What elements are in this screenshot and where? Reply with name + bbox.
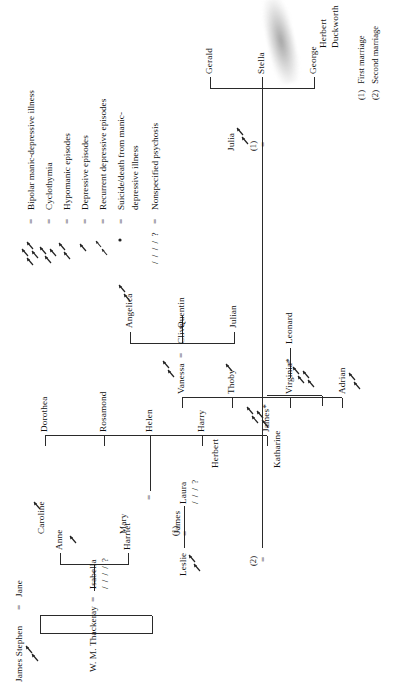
legend-equals: = [98, 219, 108, 224]
node-george: George [308, 46, 318, 74]
node-virginia-star: Virginia* [284, 358, 294, 394]
connector [104, 436, 105, 446]
legend-symbol-slashes: / / / / ? [150, 232, 160, 264]
connector [40, 616, 41, 634]
connector [182, 398, 183, 408]
node-isabella: Isabella [88, 559, 98, 589]
legend-equals: = [62, 219, 72, 224]
rotated-canvas: James Stephen = Jane W. M. Thackeray = I… [0, 0, 400, 696]
connector [267, 436, 268, 446]
legend-symbol-two-small-arrows [96, 224, 110, 266]
connector [267, 395, 322, 396]
legend-symbol-dot-arrow [114, 224, 128, 266]
node-vanessa: Vanessa [176, 363, 186, 394]
node-james-stephen: James Stephen [14, 626, 24, 682]
connector [45, 436, 46, 446]
node-herbert-duckworth-first: Herbert [318, 19, 328, 48]
node-quentin: Quentin [176, 297, 186, 328]
footnote-marker: (1) [356, 90, 366, 100]
connector [234, 332, 235, 344]
connector [184, 506, 185, 548]
connector [262, 156, 263, 398]
footnote-text: Second marriage [370, 26, 380, 84]
node-wm-thackeray: W. M. Thackeray [88, 606, 98, 672]
connector [232, 398, 233, 408]
equals-sign: = [144, 495, 154, 500]
legend-symbol-three-arrows [42, 224, 56, 266]
connector [128, 553, 129, 565]
connector [182, 397, 262, 398]
node-helen: Helen [144, 409, 154, 432]
legend-equals: = [116, 219, 126, 224]
equals-sign: = [180, 531, 190, 536]
legend-label: Bipolar manic-depressive illness [26, 90, 36, 210]
node-anne: Anne [54, 529, 64, 550]
connector [290, 398, 291, 408]
legend-symbol-one-arrow [78, 224, 92, 266]
connector [262, 77, 263, 89]
legend-label: Cyclothymia [44, 163, 54, 210]
footnote-text: First marriage [356, 35, 366, 83]
connector [60, 553, 61, 565]
connector [152, 616, 153, 634]
family-tree-page: James Stephen = Jane W. M. Thackeray = I… [0, 0, 400, 696]
legend-label: depressive illness [130, 145, 140, 210]
legend-label: Nonspecified psychosis [150, 123, 160, 210]
legend-symbol-four-arrows [24, 224, 38, 266]
node-thoby: Thoby [226, 369, 236, 394]
connector [150, 436, 151, 446]
marker-isabella-unspecified: / / / / ? [100, 557, 110, 589]
legend-equals: = [80, 219, 90, 224]
connector [210, 77, 211, 89]
node-leonard: Leonard [284, 312, 294, 344]
legend-label: Hypomanic episodes [62, 133, 72, 210]
node-gerald: Gerald [204, 48, 214, 74]
node-julian: Julian [228, 305, 238, 328]
node-herbert: Herbert [210, 439, 220, 468]
equals-sign: = [258, 142, 268, 147]
equals-sign: = [258, 557, 268, 562]
node-herbert-duckworth-last: Duckworth [330, 5, 340, 48]
marriage-label-one-duckworth: (1) [248, 141, 258, 151]
node-katharine: Katharine [272, 430, 282, 468]
connector [262, 89, 263, 131]
connector [130, 332, 131, 344]
equals-sign: = [14, 605, 24, 610]
legend-label: Suicide/death from manic- [116, 112, 126, 210]
legend-label: Recurrent depressive episodes [98, 99, 108, 210]
node-mary: Mary [118, 513, 128, 534]
connector [342, 398, 343, 408]
footnote-first-marriage: (1) First marriage [356, 35, 366, 100]
footnote-marker: (2) [370, 90, 380, 100]
footnote-second-marriage: (2) Second marriage [370, 26, 380, 100]
legend-equals: = [26, 219, 36, 224]
marker-laura-unspecified: / / / ? [190, 479, 200, 504]
node-rosamond: Rosamond [98, 391, 108, 432]
legend-equals: = [150, 219, 160, 224]
equals-sign: = [176, 353, 186, 358]
connector [314, 77, 315, 89]
connector [202, 436, 203, 446]
legend-equals: = [44, 219, 54, 224]
node-stella: Stella [256, 52, 266, 74]
equals-sign: = [88, 597, 98, 602]
connector [262, 397, 342, 398]
node-jane: Jane [14, 580, 24, 597]
marriage-label-two: (2) [248, 556, 258, 566]
node-laura: Laura [178, 482, 188, 504]
legend-label: Depressive episodes [80, 135, 90, 210]
node-dorothea: Dorothea [39, 397, 49, 432]
node-harry: Harry [196, 410, 206, 432]
legend-symbol-two-arrows [60, 224, 74, 266]
marriage-label-one: (1) [170, 526, 180, 536]
connector [45, 435, 267, 436]
node-adrian: Adrian [337, 368, 347, 394]
